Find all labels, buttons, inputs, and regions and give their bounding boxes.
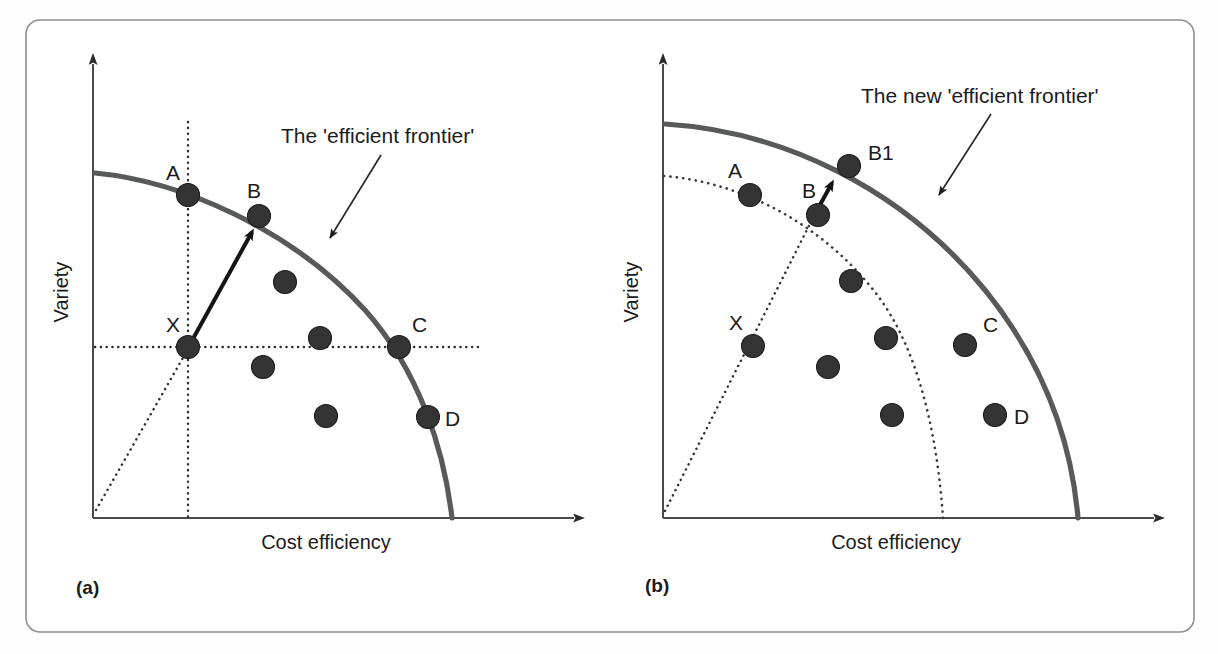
panel-a-y-axis-label: Variety — [50, 262, 72, 323]
panel-a-tag: (a) — [76, 577, 99, 598]
panel-b-scatter-point — [875, 327, 898, 350]
panel-b-point-b — [807, 204, 830, 227]
panel-b-y-axis-label: Variety — [620, 262, 642, 323]
panel-b-point-c — [954, 334, 977, 357]
panel-b-scatter-point — [840, 270, 863, 293]
panel-b-point-label-c: C — [983, 313, 998, 336]
panel-a-scatter-point — [315, 405, 338, 428]
panel-b-callout-label: The new 'efficient frontier' — [861, 84, 1099, 107]
panel-a-point-label-c: C — [412, 313, 427, 336]
panel-a-scatter-point — [252, 356, 275, 379]
panel-a-scatter-point — [309, 327, 332, 350]
panel-b-point-b1 — [838, 155, 861, 178]
panel-a-point-d — [417, 406, 440, 429]
efficient-frontier-figure: The 'efficient frontier' A B C D X Cost … — [0, 0, 1218, 654]
panel-a-scatter-point — [274, 271, 297, 294]
panel-b-scatter-point — [817, 356, 840, 379]
panel-b-point-x — [742, 335, 765, 358]
figure-root: The 'efficient frontier' A B C D X Cost … — [0, 0, 1218, 654]
panel-a-point-x — [177, 336, 200, 359]
panel-b-point-label-b: B — [802, 179, 816, 202]
panel-a-x-axis-label: Cost efficiency — [261, 531, 391, 553]
panel-b-scatter-point — [881, 404, 904, 427]
panel-a-point-c — [388, 336, 411, 359]
panel-a-point-a — [177, 184, 200, 207]
panel-b-tag: (b) — [645, 575, 669, 596]
panel-b-point-label-d: D — [1014, 405, 1029, 428]
panel-b-point-label-x: X — [729, 311, 743, 334]
panel-b-x-axis-label: Cost efficiency — [831, 531, 961, 553]
panel-b-point-a — [739, 184, 762, 207]
panel-b-point-label-a: A — [728, 159, 742, 182]
panel-a-point-label-a: A — [166, 161, 180, 184]
panel-a-callout-label: The 'efficient frontier' — [281, 124, 474, 147]
panel-a-point-label-x: X — [166, 313, 180, 336]
panel-b-point-label-b1: B1 — [868, 141, 894, 164]
panel-a-point-b — [248, 205, 271, 228]
panel-b-point-d — [984, 404, 1007, 427]
panel-a-point-label-b: B — [247, 179, 261, 202]
panel-a-point-label-d: D — [445, 407, 460, 430]
